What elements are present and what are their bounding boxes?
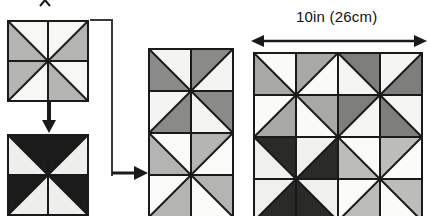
measure-double-arrow-icon (251, 33, 427, 49)
down-arrow-icon (41, 100, 57, 134)
measurement-label: 10in (26cm) (296, 8, 377, 25)
unit-block-top-left (254, 53, 338, 137)
single-dark-pinwheel-block (7, 134, 89, 216)
single-light-pinwheel-block (7, 20, 89, 102)
bracket-right-arrow-connector (88, 18, 150, 178)
column-block-top (149, 49, 233, 133)
two-block-column (148, 48, 234, 216)
unit-block-top-right (338, 53, 422, 137)
unit-block-bottom-left (254, 137, 338, 216)
four-block-finished-unit (253, 52, 427, 216)
column-block-bottom (149, 133, 233, 216)
cropped-arrow-tip-mark (38, 0, 52, 8)
unit-block-bottom-right (338, 137, 422, 216)
quilt-assembly-diagram: 10in (26cm) (0, 0, 427, 216)
